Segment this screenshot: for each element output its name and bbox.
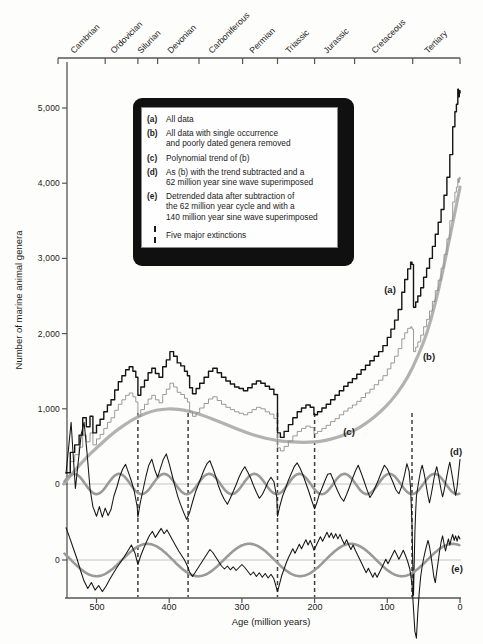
dashed-line-icon <box>147 226 163 243</box>
x-axis-tick-label: 500 <box>82 602 112 612</box>
legend-text-d: As (b) with the trend subtracted and a 6… <box>166 167 333 187</box>
legend-key-c: (c) <box>147 153 163 163</box>
y-axis <box>62 62 67 598</box>
y-axis-detrended-zero-label: 0 <box>18 555 60 565</box>
curve-label-e: (e) <box>446 563 468 574</box>
legend-box: (a) All data (b) All data with single oc… <box>133 98 354 266</box>
legend-key-e: (e) <box>147 191 163 222</box>
y-axis-title: Number of marine animal genera <box>13 200 25 400</box>
curve-label-b: (b) <box>418 351 440 362</box>
legend-text-a: All data <box>166 114 333 124</box>
curve-label-c: (c) <box>338 426 360 437</box>
x-axis-tick-label: 100 <box>372 602 402 612</box>
legend-key-a: (a) <box>147 114 163 124</box>
curve-label-a: (a) <box>379 284 401 295</box>
curve-label-d: (d) <box>445 446 467 457</box>
legend-item-e: (e) Detrended data after subtraction of … <box>147 191 333 222</box>
period-axis <box>58 58 460 64</box>
chart-canvas <box>0 0 483 644</box>
legend-item-extinctions: Five major extinctions <box>147 226 333 243</box>
x-axis-tick-label: 300 <box>227 602 257 612</box>
x-axis-tick-label: 0 <box>445 602 475 612</box>
legend-text-b: All data with single occurrence and poor… <box>166 128 333 148</box>
legend-text-c: Polynomial trend of (b) <box>166 153 333 163</box>
x-axis-tick-label: 400 <box>154 602 184 612</box>
legend-item-c: (c) Polynomial trend of (b) <box>147 153 333 163</box>
legend-item-a: (a) All data <box>147 114 333 124</box>
y-axis-tick-label: 4,000 <box>18 178 60 188</box>
legend-key-b: (b) <box>147 128 163 148</box>
biodiversity-chart-figure: Cambrian Ordovician Silurian Devonian Ca… <box>0 0 483 644</box>
curve-d <box>66 422 460 595</box>
x-axis-title: Age (million years) <box>186 616 356 627</box>
y-axis-tick-label: 1,000 <box>18 404 60 414</box>
y-axis-tick-label: 5,000 <box>18 103 60 113</box>
y-axis-tick-label: 0 <box>18 479 60 489</box>
legend-panel: (a) All data (b) All data with single oc… <box>141 107 338 248</box>
legend-key-d: (d) <box>147 167 163 187</box>
x-axis-tick-label: 200 <box>300 602 330 612</box>
legend-item-d: (d) As (b) with the trend subtracted and… <box>147 167 333 187</box>
legend-text-extinctions: Five major extinctions <box>166 226 333 243</box>
legend-item-b: (b) All data with single occurrence and … <box>147 128 333 148</box>
legend-text-e: Detrended data after subtraction of the … <box>166 191 333 222</box>
